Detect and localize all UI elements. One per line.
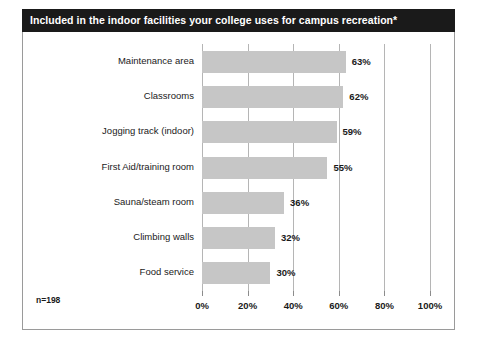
plot-area: 0%20%40%60%80%100%63%Maintenance area62%… <box>202 44 430 291</box>
x-axis-tick-label: 20% <box>238 300 257 311</box>
gridline-100pct <box>430 44 431 291</box>
bar[interactable] <box>202 86 343 108</box>
category-label: Food service <box>140 266 194 277</box>
category-label: First Aid/training room <box>102 161 194 172</box>
bar-value-label: 59% <box>343 126 362 137</box>
bar-row[interactable]: 36%Sauna/steam room <box>202 192 430 214</box>
x-tick-mark <box>430 291 431 296</box>
x-axis-tick-label: 80% <box>375 300 394 311</box>
bar-value-label: 32% <box>281 232 300 243</box>
chart-figure: Included in the indoor facilities your c… <box>0 0 477 349</box>
bar-value-label: 63% <box>352 56 371 67</box>
x-tick-mark <box>202 291 203 296</box>
bar-row[interactable]: 55%First Aid/training room <box>202 157 430 179</box>
chart-title-banner: Included in the indoor facilities your c… <box>22 9 455 32</box>
x-tick-mark <box>339 291 340 296</box>
x-axis-tick-label: 100% <box>418 300 442 311</box>
bar-row[interactable]: 62%Classrooms <box>202 86 430 108</box>
bar-row[interactable]: 59%Jogging track (indoor) <box>202 121 430 143</box>
category-label: Climbing walls <box>133 231 194 242</box>
bar[interactable] <box>202 51 346 73</box>
bar[interactable] <box>202 262 270 284</box>
bar[interactable] <box>202 227 275 249</box>
x-axis-tick-label: 0% <box>195 300 209 311</box>
bar-value-label: 62% <box>349 91 368 102</box>
sample-size-note: n=198 <box>36 295 60 305</box>
bar-row[interactable]: 63%Maintenance area <box>202 51 430 73</box>
bar-value-label: 30% <box>276 267 295 278</box>
page-title: Included in the indoor facilities your c… <box>30 14 397 26</box>
bar[interactable] <box>202 121 337 143</box>
category-label: Sauna/steam room <box>114 196 194 207</box>
category-label: Classrooms <box>144 90 194 101</box>
bar[interactable] <box>202 157 327 179</box>
category-label: Jogging track (indoor) <box>102 125 194 136</box>
category-label: Maintenance area <box>118 55 194 66</box>
bar-value-label: 55% <box>333 162 352 173</box>
x-axis-tick-label: 60% <box>329 300 348 311</box>
x-tick-mark <box>248 291 249 296</box>
bar[interactable] <box>202 192 284 214</box>
x-tick-mark <box>293 291 294 296</box>
bar-row[interactable]: 30%Food service <box>202 262 430 284</box>
x-axis-tick-label: 40% <box>284 300 303 311</box>
bar-row[interactable]: 32%Climbing walls <box>202 227 430 249</box>
bar-value-label: 36% <box>290 197 309 208</box>
x-tick-mark <box>384 291 385 296</box>
